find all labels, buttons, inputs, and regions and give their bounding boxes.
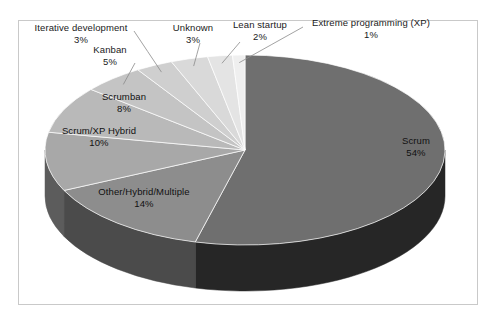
slice-label-percent: 54% xyxy=(392,147,440,159)
slice-label-unknown: Unknown 3% xyxy=(163,22,223,45)
slice-label-percent: 14% xyxy=(82,198,206,210)
slice-label-text: Kanban xyxy=(93,44,126,55)
slice-label-text: Scrum xyxy=(402,135,430,146)
slice-label-kanban: Kanban 5% xyxy=(81,44,139,67)
slice-label-text: Scrum/XP Hybrid xyxy=(62,125,136,136)
slice-label-scrumban: Scrumban 8% xyxy=(89,91,159,114)
slice-label-text: Other/Hybrid/Multiple xyxy=(98,186,189,197)
slice-label-iterative-development: Iterative development 3% xyxy=(26,22,136,45)
slice-label-percent: 10% xyxy=(51,137,147,149)
slice-label-percent: 1% xyxy=(305,29,437,41)
slice-label-other-hybrid-multiple: Other/Hybrid/Multiple 14% xyxy=(82,186,206,209)
slice-label-text: Iterative development xyxy=(35,22,128,33)
slice-label-text: Unknown xyxy=(173,22,213,33)
slice-label-text: Scrumban xyxy=(102,91,146,102)
slice-label-extreme-programming-xp: Extreme programming (XP) 1% xyxy=(305,17,437,40)
pie-top-faces xyxy=(45,55,445,245)
slice-label-text: Lean startup xyxy=(233,19,287,30)
slice-label-percent: 5% xyxy=(81,56,139,68)
slice-label-percent: 2% xyxy=(226,31,294,43)
pie-chart xyxy=(0,0,498,320)
slice-label-scrum: Scrum 54% xyxy=(392,135,440,158)
slice-label-lean-startup: Lean startup 2% xyxy=(226,19,294,42)
slice-label-percent: 8% xyxy=(89,103,159,115)
slice-label-percent: 3% xyxy=(163,34,223,46)
slice-label-text: Extreme programming (XP) xyxy=(312,17,430,28)
slice-label-scrum-xp-hybrid: Scrum/XP Hybrid 10% xyxy=(51,125,147,148)
